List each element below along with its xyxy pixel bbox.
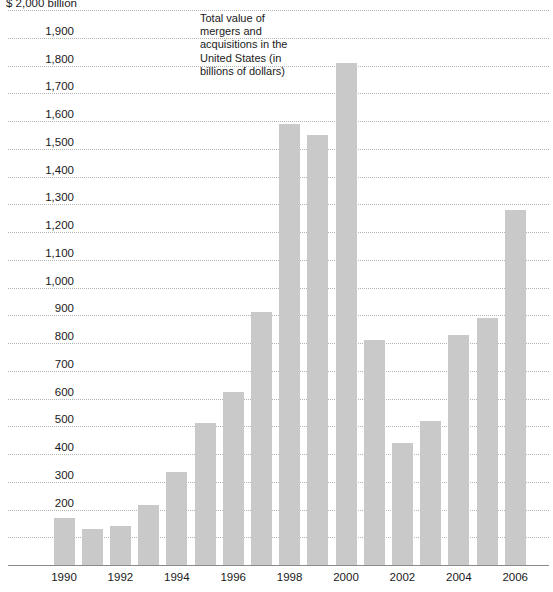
bar-1992: [110, 526, 131, 565]
bar-1998: [279, 124, 300, 565]
bar-1997: [251, 312, 272, 565]
bar-1996: [223, 392, 244, 565]
bar-2003: [420, 421, 441, 565]
bars-group: [0, 0, 553, 592]
x-axis-label-1998: 1998: [260, 570, 320, 584]
chart-annotation: Total value of mergers and acquisitions …: [200, 12, 308, 78]
mergers-acquisitions-bar-chart: $ 2,000 billion1,9001,8001,7001,6001,500…: [0, 0, 553, 592]
x-axis-label-1992: 1992: [90, 570, 150, 584]
bar-2000: [336, 63, 357, 565]
x-axis-label-1990: 1990: [34, 570, 94, 584]
x-axis-label-2006: 2006: [485, 570, 545, 584]
bar-1995: [195, 423, 216, 565]
bar-1991: [82, 529, 103, 565]
x-axis-label-1994: 1994: [147, 570, 207, 584]
bar-1993: [138, 505, 159, 565]
bar-2001: [364, 340, 385, 565]
x-axis-label-1996: 1996: [203, 570, 263, 584]
bar-1994: [166, 472, 187, 565]
x-axis-label-2004: 2004: [429, 570, 489, 584]
bar-1990: [54, 518, 75, 565]
bar-2002: [392, 443, 413, 565]
bar-2005: [477, 318, 498, 565]
bar-1999: [307, 135, 328, 565]
x-axis-label-2000: 2000: [316, 570, 376, 584]
x-axis-label-2002: 2002: [372, 570, 432, 584]
bar-2004: [448, 335, 469, 565]
bar-2006: [505, 210, 526, 565]
